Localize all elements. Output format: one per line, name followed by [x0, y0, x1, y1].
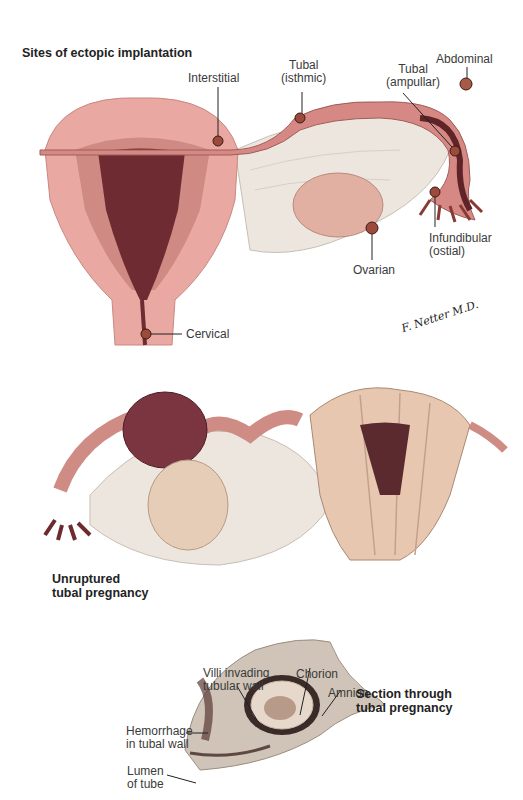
label-villi: Villi invading tubular wall: [203, 667, 270, 693]
implant-abdominal: [460, 78, 472, 90]
implant-infundibular: [430, 187, 440, 197]
caption-unruptured: Unruptured tubal pregnancy: [52, 572, 149, 600]
label-hemorrhage: Hemorrhage in tubal wall: [126, 725, 193, 751]
implant-interstitial: [213, 136, 223, 146]
caption-section: Section through tubal pregnancy: [356, 687, 453, 715]
label-tubal-isthmic: Tubal (isthmic): [281, 59, 326, 85]
implant-cervical: [141, 329, 151, 339]
label-ovarian: Ovarian: [353, 264, 395, 277]
unruptured-tubal-pregnancy-illustration: [0, 375, 523, 575]
label-lumen: Lumen of tube: [127, 765, 164, 791]
implant-isthmic: [295, 113, 305, 123]
label-cervical: Cervical: [186, 328, 229, 341]
label-tubal-ampullar: Tubal (ampullar): [386, 63, 440, 89]
label-abdominal: Abdominal: [436, 53, 493, 66]
implant-ampullar: [450, 146, 460, 156]
implant-ovarian: [366, 222, 378, 234]
label-chorion: Chorion: [296, 668, 338, 681]
panel-title-sites: Sites of ectopic implantation: [22, 46, 192, 60]
label-interstitial: Interstitial: [188, 72, 239, 85]
label-infundibular: Infundibular (ostial): [429, 232, 492, 258]
